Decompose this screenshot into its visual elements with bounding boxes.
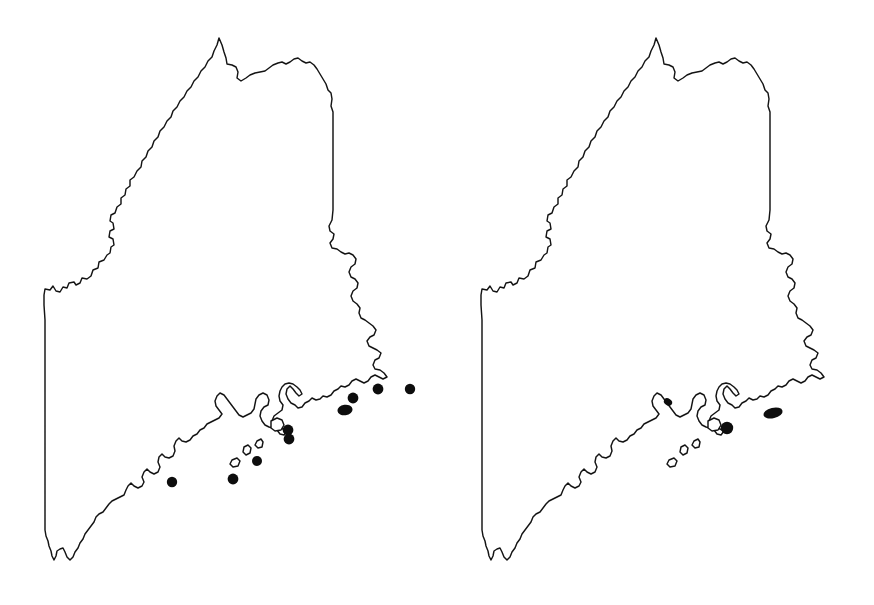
occurrence-dot [228, 474, 239, 485]
island-outline [243, 445, 251, 455]
occurrence-dot [337, 404, 353, 416]
island-outline [680, 445, 688, 455]
island-outline [255, 439, 263, 448]
distribution-map-figure [0, 0, 874, 605]
left-map-svg [0, 0, 437, 605]
occurrence-dot [762, 406, 784, 421]
island-outline [271, 418, 284, 431]
island-outline [667, 458, 677, 467]
right-state-outline-group [481, 38, 824, 560]
maine-state-outline [481, 38, 824, 560]
occurrence-dot [284, 434, 295, 445]
occurrence-dot [252, 456, 262, 466]
island-outline [692, 439, 700, 448]
occurrence-dot [405, 384, 415, 394]
left-state-outline-group [44, 38, 387, 560]
right-map-svg [437, 0, 874, 605]
maine-state-outline [44, 38, 387, 560]
island-outline [708, 418, 721, 431]
right-island-group [667, 418, 721, 467]
occurrence-dot [373, 384, 384, 395]
occurrence-dot [721, 422, 733, 434]
right-distribution-map [437, 0, 874, 605]
left-distribution-map [0, 0, 437, 605]
island-outline [230, 458, 240, 467]
occurrence-dot [348, 393, 359, 404]
occurrence-dot [167, 477, 177, 487]
